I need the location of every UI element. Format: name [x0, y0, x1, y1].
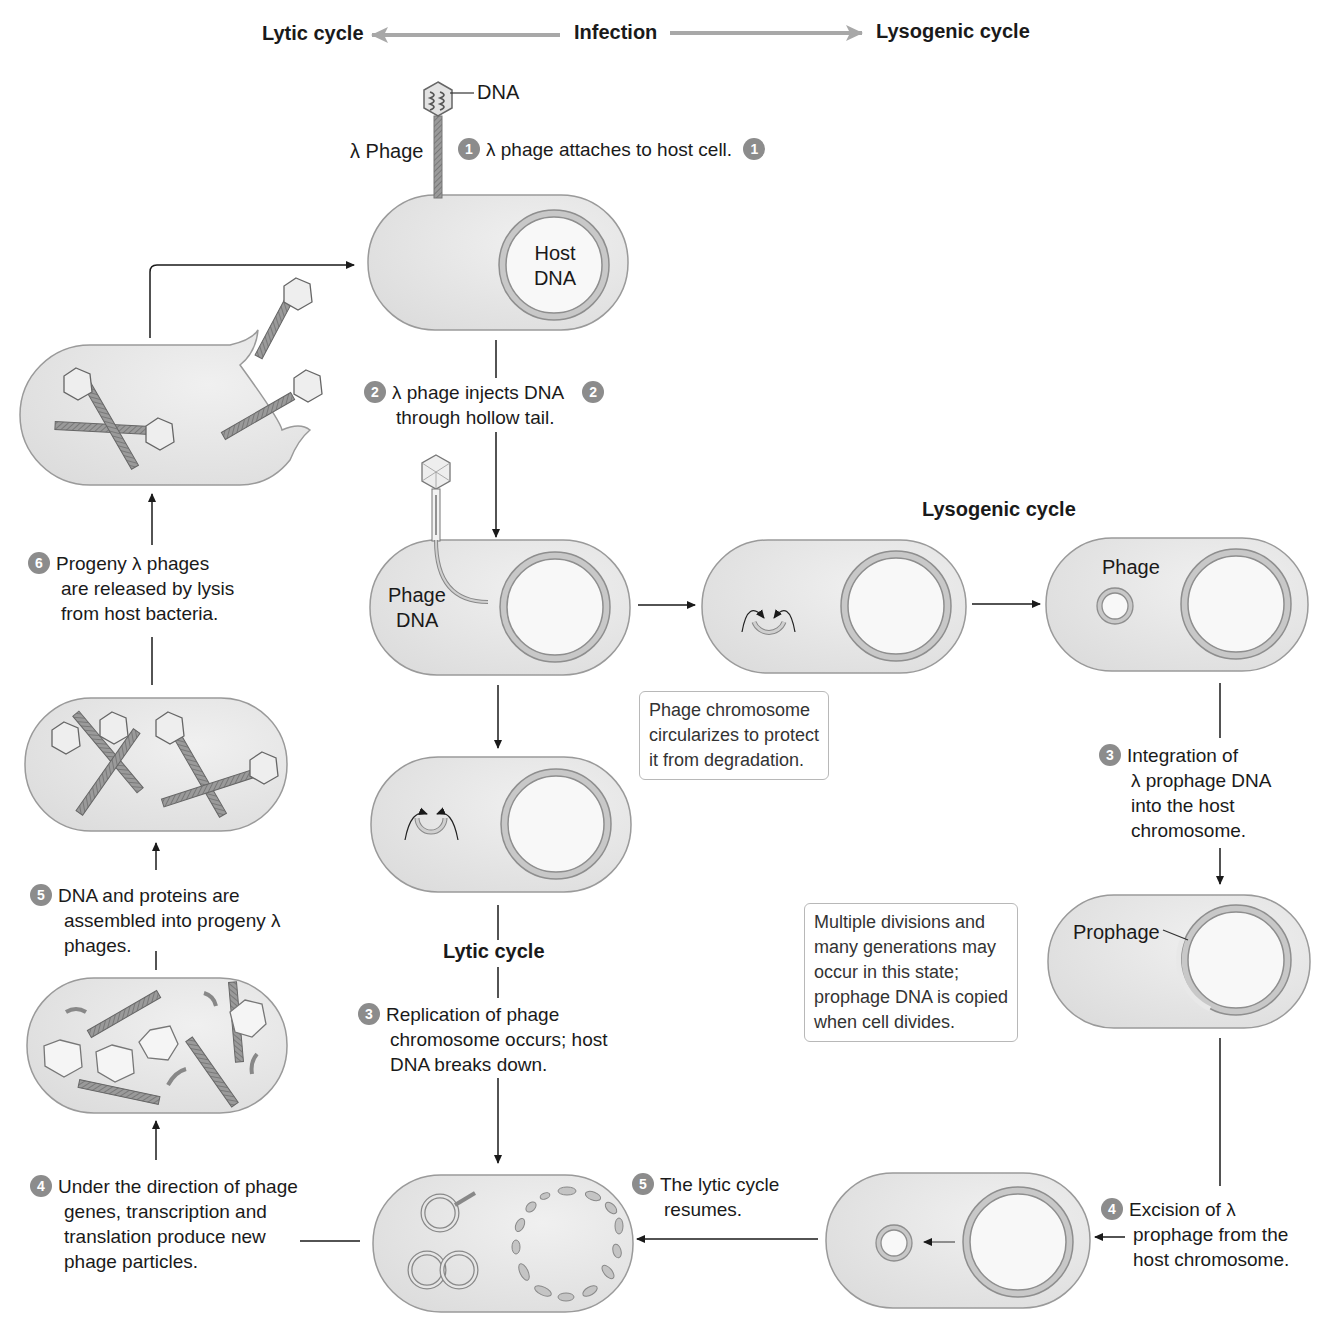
step-infection-2: 2λ phage injects DNA2 through hollow tai…: [364, 380, 610, 430]
step-lysogenic-4: 4Excision of λ prophage from the host ch…: [1101, 1197, 1289, 1272]
diagram-graphics: [0, 0, 1330, 1331]
step-number-badge: 5: [632, 1173, 654, 1195]
step-number-badge: 2: [364, 381, 386, 403]
step-number-badge-right: 1: [743, 138, 765, 160]
cell-phage-components: [27, 978, 287, 1113]
step-number-badge: 3: [1099, 744, 1121, 766]
label-prophage: Prophage: [1073, 920, 1160, 945]
step-number-badge: 1: [458, 138, 480, 160]
step-lysogenic-5: 5The lytic cycle resumes.: [632, 1172, 779, 1222]
header-infection: Infection: [574, 21, 657, 44]
header-lysogenic-cycle: Lysogenic cycle: [876, 20, 1030, 43]
step-lysogenic-3: 3Integration of λ prophage DNA into the …: [1099, 743, 1271, 843]
label-phage: Phage: [1102, 555, 1160, 580]
cell-replication: [373, 1175, 633, 1312]
label-dna: DNA: [477, 80, 519, 105]
step-lytic-3: 3Replication of phage chromosome occurs;…: [358, 1002, 608, 1077]
step-number-badge-right: 2: [582, 381, 604, 403]
step-number-badge: 6: [28, 552, 50, 574]
step-number-badge: 4: [30, 1175, 52, 1197]
section-lysogenic-cycle: Lysogenic cycle: [922, 498, 1076, 521]
step-number-badge: 4: [1101, 1198, 1123, 1220]
note-divisions: Multiple divisions and many generations …: [804, 903, 1018, 1042]
host-cell-infection: [368, 82, 628, 330]
step-lytic-6: 6Progeny λ phages are released by lysis …: [28, 551, 234, 626]
step-number-badge: 5: [30, 884, 52, 906]
cell-assembled-phages: [25, 698, 287, 831]
cell-excision: [826, 1173, 1090, 1308]
cell-dna-injection: [370, 455, 630, 675]
label-host-dna: Host DNA: [532, 241, 578, 291]
cell-prophage: [1048, 895, 1310, 1028]
step-infection-1: 1λ phage attaches to host cell. 1: [458, 137, 771, 162]
cell-lysogenic-circularize: [702, 540, 966, 673]
step-lytic-4: 4Under the direction of phage genes, tra…: [30, 1174, 298, 1274]
step-lytic-5: 5DNA and proteins are assembled into pro…: [30, 883, 281, 958]
note-circularize: Phage chromosome circularizes to protect…: [639, 691, 829, 780]
label-phage-dna: Phage DNA: [388, 583, 446, 633]
cell-lytic-circularize: [371, 757, 631, 892]
header-lytic-cycle: Lytic cycle: [262, 22, 364, 45]
label-lambda-phage: λ Phage: [350, 139, 423, 164]
cell-lysis: [20, 278, 322, 485]
step-number-badge: 3: [358, 1003, 380, 1025]
section-lytic-cycle: Lytic cycle: [443, 940, 545, 963]
cell-phage-circle: [1046, 538, 1308, 671]
